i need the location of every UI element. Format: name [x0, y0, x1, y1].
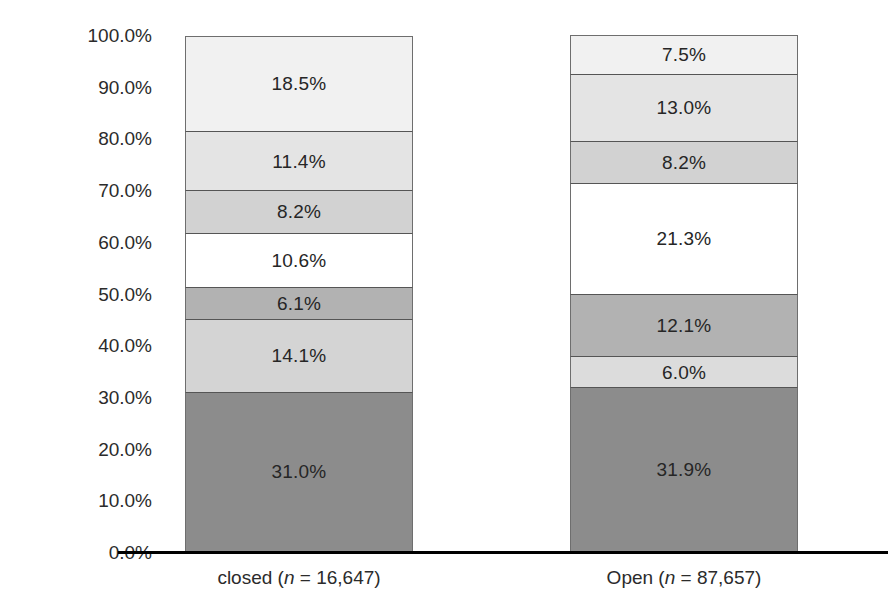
segment-value-label: 31.0%: [272, 462, 327, 481]
segment-value-label: 14.1%: [272, 346, 327, 365]
bar-segment[interactable]: 21.3%: [570, 183, 798, 293]
segment-value-label: 8.2%: [662, 153, 706, 172]
segment-value-label: 8.2%: [277, 202, 321, 221]
bar-segment[interactable]: 11.4%: [185, 131, 413, 190]
bar-segment[interactable]: 6.1%: [185, 287, 413, 319]
plot-area: 31.0%14.1%6.1%10.6%8.2%11.4%18.5%closed …: [0, 0, 888, 597]
sample-size-variable: n: [284, 567, 295, 588]
bar-segment[interactable]: 31.9%: [570, 387, 798, 552]
sample-size-value: = 87,657): [675, 567, 761, 588]
segment-value-label: 13.0%: [657, 98, 712, 117]
bar-segment[interactable]: 18.5%: [185, 36, 413, 132]
bar-segment[interactable]: 12.1%: [570, 294, 798, 357]
sample-size-variable: n: [665, 567, 676, 588]
bar-segment[interactable]: 10.6%: [185, 233, 413, 288]
x-axis-baseline: [118, 551, 888, 554]
stacked-bar-chart: 100.0%90.0%80.0%70.0%60.0%50.0%40.0%30.0…: [0, 0, 888, 597]
segment-value-label: 12.1%: [657, 316, 712, 335]
segment-value-label: 21.3%: [657, 229, 712, 248]
segment-value-label: 18.5%: [272, 74, 327, 93]
x-category-label-closed: closed (n = 16,647): [185, 567, 413, 589]
bar-segment[interactable]: 8.2%: [185, 190, 413, 232]
sample-size-value: = 16,647): [295, 567, 381, 588]
segment-value-label: 6.0%: [662, 363, 706, 382]
segment-value-label: 31.9%: [657, 460, 712, 479]
category-name: Open (: [607, 567, 665, 588]
category-name: closed (: [217, 567, 284, 588]
bar-closed[interactable]: 31.0%14.1%6.1%10.6%8.2%11.4%18.5%: [185, 36, 413, 552]
bar-open[interactable]: 31.9%6.0%12.1%21.3%8.2%13.0%7.5%: [570, 35, 798, 552]
bar-segment[interactable]: 14.1%: [185, 319, 413, 392]
x-category-label-open: Open (n = 87,657): [570, 567, 798, 589]
segment-value-label: 7.5%: [662, 45, 706, 64]
bar-segment[interactable]: 6.0%: [570, 356, 798, 387]
bar-segment[interactable]: 8.2%: [570, 141, 798, 183]
bar-segment[interactable]: 7.5%: [570, 35, 798, 74]
segment-value-label: 6.1%: [277, 294, 321, 313]
segment-value-label: 11.4%: [272, 152, 325, 171]
segment-value-label: 10.6%: [272, 251, 327, 270]
bar-segment[interactable]: 13.0%: [570, 74, 798, 141]
bar-segment[interactable]: 31.0%: [185, 392, 413, 552]
